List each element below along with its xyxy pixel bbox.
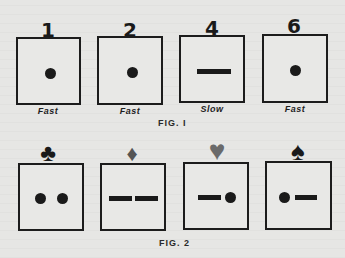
speed-label-4: Slow [182,104,242,114]
club-icon: ♣ [33,142,63,164]
speed-label-1: Fast [18,106,78,116]
dot-symbol [57,193,68,204]
speed-label-6: Fast [265,104,325,114]
dash-symbol [109,196,132,201]
dash-symbol [198,195,221,200]
dot-symbol [127,67,138,78]
dash-symbol [135,196,158,201]
diagram-page: 1 Fast 2 Fast 4 Slow 6 Fast FIG. I ♣ [0,0,345,258]
fig2-card-spade [265,161,332,230]
fig1-card-6 [262,34,328,103]
fig1-card-4 [179,35,245,103]
dot-symbol [290,65,301,76]
dash-symbol [197,69,231,74]
fig1-card-1 [16,37,81,105]
fig2-card-club [18,163,84,231]
dash-symbol [295,195,317,200]
heart-icon: ♥ [202,137,232,165]
diamond-icon: ♦ [117,143,147,165]
fig1-card-2 [97,36,163,105]
fig2-card-diamond [100,163,166,231]
dot-symbol [225,192,236,203]
figure-2-caption: FIG. 2 [159,238,190,248]
dot-symbol [279,192,290,203]
speed-label-2: Fast [100,106,160,116]
figure-1-caption: FIG. I [158,118,187,128]
dot-symbol [45,68,56,79]
dot-symbol [35,193,46,204]
fig2-card-heart [183,162,249,230]
